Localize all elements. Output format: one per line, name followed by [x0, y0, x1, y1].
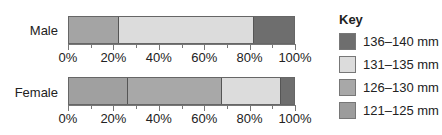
bar-segment	[69, 78, 128, 104]
legend-swatch	[339, 33, 356, 50]
row-label-female: Female	[0, 85, 58, 100]
axis-tick	[182, 105, 183, 109]
legend-item-136-140: 136–140 mm	[339, 33, 439, 50]
axis-tick	[182, 44, 183, 48]
legend-label: 131–135 mm	[363, 57, 439, 72]
axis-tick-label: 100%	[278, 111, 311, 126]
axis-tick	[272, 44, 273, 48]
legend-item-126-130: 126–130 mm	[339, 79, 439, 96]
row-label-male: Male	[0, 23, 58, 38]
axis-tick-label: 20%	[100, 50, 126, 65]
legend-label: 121–125 mm	[363, 103, 439, 118]
axis-tick	[227, 44, 228, 48]
legend-swatch	[339, 102, 356, 119]
axis-tick	[136, 105, 137, 109]
axis-tick	[227, 105, 228, 109]
legend-title: Key	[339, 12, 363, 27]
axis-tick-label: 80%	[237, 111, 263, 126]
axis-tick-label: 40%	[146, 111, 172, 126]
legend-swatch	[339, 79, 356, 96]
bar-male	[68, 16, 295, 44]
axis-tick	[91, 44, 92, 48]
axis-tick-label: 40%	[146, 50, 172, 65]
axis-tick-label: 20%	[100, 111, 126, 126]
axis-tick-label: 0%	[59, 50, 78, 65]
legend-item-131-135: 131–135 mm	[339, 56, 439, 73]
axis-tick-label: 100%	[278, 50, 311, 65]
bar-segment	[254, 17, 295, 43]
bar-female	[68, 77, 295, 105]
axis-tick-label: 60%	[191, 111, 217, 126]
bar-segment	[69, 17, 119, 43]
axis-tick	[272, 105, 273, 109]
legend-label: 126–130 mm	[363, 80, 439, 95]
legend-swatch	[339, 56, 356, 73]
axis-tick	[91, 105, 92, 109]
axis-tick-label: 80%	[237, 50, 263, 65]
legend-label: 136–140 mm	[363, 34, 439, 49]
bar-segment	[281, 78, 295, 104]
bar-segment	[128, 78, 223, 104]
axis-tick	[136, 44, 137, 48]
legend-item-121-125: 121–125 mm	[339, 102, 439, 119]
bar-segment	[222, 78, 281, 104]
axis-tick-label: 0%	[59, 111, 78, 126]
bar-segment	[119, 17, 254, 43]
axis-tick-label: 60%	[191, 50, 217, 65]
